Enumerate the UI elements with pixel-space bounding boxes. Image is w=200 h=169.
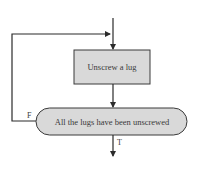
process-node: Unscrew a lug — [74, 50, 150, 84]
true-branch-label: T — [117, 138, 122, 147]
decision-node: All the lugs have been unscrewed — [36, 108, 187, 135]
decision-label: All the lugs have been unscrewed — [55, 117, 170, 127]
flowchart: Unscrew a lug All the lugs have been uns… — [0, 0, 200, 169]
false-branch-label: F — [27, 111, 32, 120]
process-label: Unscrew a lug — [87, 62, 137, 72]
